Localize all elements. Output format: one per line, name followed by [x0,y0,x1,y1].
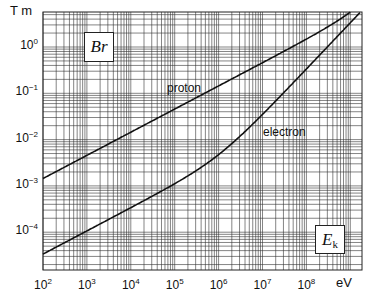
br-annotation: Br [91,37,108,57]
ek-annotation: Ek [322,230,338,250]
y-unit-label: T m [10,5,32,17]
x-tick-label: 105 [155,279,195,291]
x-tick-label: 108 [286,279,326,291]
y-tick-label: 10−2 [2,132,38,144]
y-tick-label: 10−3 [2,178,38,190]
ek-annotation-box: Ek [315,225,345,254]
br-annotation-box: Br [84,32,114,62]
y-tick-label: 10−1 [2,85,38,97]
x-tick-label: 104 [111,279,151,291]
x-tick-label: 107 [243,279,283,291]
x-tick-label: 106 [199,279,239,291]
x-unit-label: eV [336,277,352,289]
x-tick-label: 102 [23,279,63,291]
proton-label: proton [167,82,201,94]
x-tick-label: 103 [67,279,107,291]
y-tick-label: 10−4 [2,224,38,236]
electron-label: electron [263,126,306,138]
y-tick-label: 100 [2,39,38,51]
